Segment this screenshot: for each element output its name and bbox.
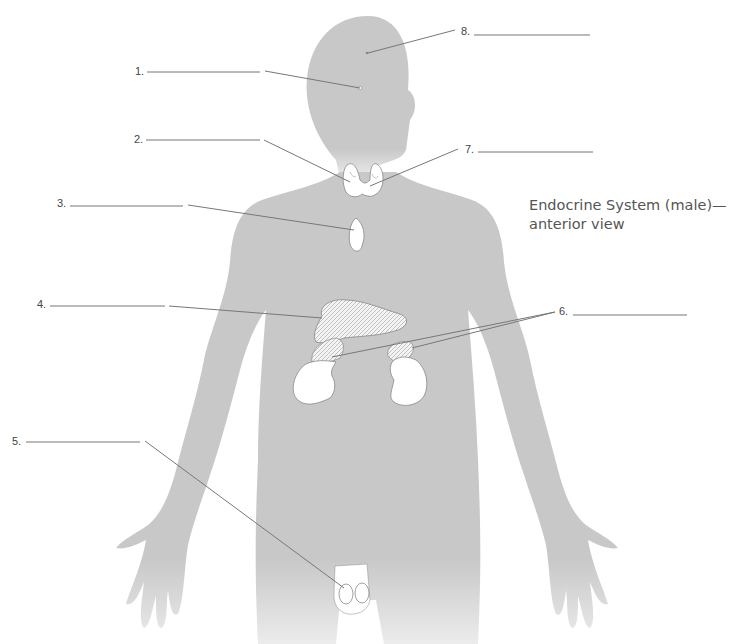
label-6: 6. (559, 305, 568, 317)
label-1: 1. (135, 65, 144, 77)
diagram-title-line2: anterior view (529, 215, 727, 234)
testis-left-icon (339, 584, 353, 604)
endocrine-diagram (0, 0, 733, 644)
label-5: 5. (12, 435, 21, 447)
label-2: 2. (134, 133, 143, 145)
testis-right-icon (355, 583, 369, 603)
diagram-title-line1: Endocrine System (male)— (529, 196, 727, 215)
label-7: 7. (465, 143, 474, 155)
label-4: 4. (37, 298, 46, 310)
label-8: 8. (461, 25, 470, 37)
pineal-gland-icon (366, 52, 369, 55)
label-3: 3. (57, 197, 66, 209)
diagram-title: Endocrine System (male)— anterior view (529, 196, 727, 234)
